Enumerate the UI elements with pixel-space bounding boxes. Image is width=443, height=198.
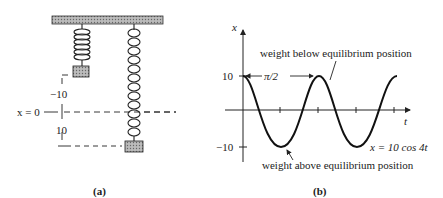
period-label: π/2 [264,70,279,82]
ceiling-bar [52,16,163,24]
minus-10-label: −10 [50,88,68,100]
caption-a: (a) [93,185,106,198]
plus-10-label: 10 [56,124,68,136]
annotation-below: weight below equilibrium position [260,47,412,59]
caption-b: (b) [313,185,327,198]
tick-minus10-label: −10 [216,141,234,153]
long-spring-icon [128,24,140,141]
equation-label: x = 10 cos 4t [369,141,428,153]
long-weight [125,141,143,152]
short-spring-icon [74,24,90,66]
t-axis-label: t [404,115,408,127]
y-axis-label: x [231,21,237,33]
figure-canvas: −10 x = 0 10 (a) x t 10 −10 π/2 weight b… [0,0,443,198]
figure-a-springs: −10 x = 0 10 (a) [17,16,176,198]
short-weight [73,66,89,77]
cosine-curve [243,76,397,147]
annotation-above: weight above equilibrium position [262,159,414,171]
figure-b-graph: x t 10 −10 π/2 weight below equilibrium … [216,21,428,198]
annotation-below-pointer [330,61,336,80]
tick-10-label: 10 [222,70,234,82]
x-zero-label: x = 0 [17,106,40,118]
axis-ticks [239,76,394,147]
